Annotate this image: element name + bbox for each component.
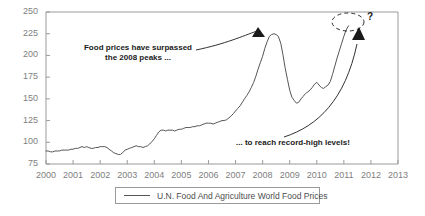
- legend-color-swatch: [124, 195, 150, 196]
- question-mark-label: ?: [367, 11, 373, 22]
- annotation-arrow-1: [196, 27, 265, 50]
- x-tick-label-2003: 2003: [112, 170, 142, 180]
- y-tick-label-75: 75: [14, 158, 38, 168]
- y-tick-label-225: 225: [14, 28, 38, 38]
- y-tick-label-125: 125: [14, 115, 38, 125]
- x-tick-label-2002: 2002: [85, 170, 115, 180]
- legend-item-label: U.N. Food And Agriculture World Food Pri…: [157, 191, 327, 201]
- chart-container: 75100125150175200225250 2000200120022003…: [0, 0, 425, 216]
- x-tick-label-2006: 2006: [193, 170, 223, 180]
- annotation-1-line-2: the 2008 peaks ...: [78, 53, 198, 63]
- y-tick-label-200: 200: [14, 49, 38, 59]
- annotation-1-line-1: Food prices have surpassed: [78, 43, 198, 53]
- x-axis-ticks: [46, 160, 398, 164]
- annotation-2008-peaks: Food prices have surpassed the 2008 peak…: [78, 43, 198, 63]
- x-tick-label-2008: 2008: [248, 170, 278, 180]
- y-tick-label-150: 150: [14, 93, 38, 103]
- y-tick-label-100: 100: [14, 136, 38, 146]
- x-tick-label-2010: 2010: [302, 170, 332, 180]
- x-tick-label-2007: 2007: [221, 170, 251, 180]
- annotation-arrow-2: [284, 27, 365, 137]
- x-tick-label-2011: 2011: [329, 170, 359, 180]
- x-tick-label-2009: 2009: [275, 170, 305, 180]
- annotation-record-high: ... to reach record-high levels!: [236, 138, 366, 148]
- x-tick-label-2004: 2004: [139, 170, 169, 180]
- x-tick-label-2012: 2012: [356, 170, 386, 180]
- y-axis-ticks: [46, 12, 50, 164]
- x-tick-label-2013: 2013: [383, 170, 413, 180]
- x-tick-label-2005: 2005: [166, 170, 196, 180]
- uncertainty-ellipse: [332, 13, 364, 31]
- x-tick-label-2001: 2001: [58, 170, 88, 180]
- chart-legend[interactable]: U.N. Food And Agriculture World Food Pri…: [115, 187, 320, 204]
- y-tick-label-250: 250: [14, 6, 38, 16]
- x-tick-label-2000: 2000: [31, 170, 61, 180]
- y-tick-label-175: 175: [14, 71, 38, 81]
- chart-plot-svg: [0, 0, 425, 216]
